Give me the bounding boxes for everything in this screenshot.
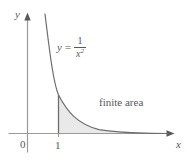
equation-denominator-exponent: 2 [81,47,85,55]
equation-lhs: y [57,42,62,53]
equation-fraction: 1 x2 [74,36,86,59]
graph-svg [0,0,189,163]
equation-denominator: x2 [74,48,86,59]
finite-area-annotation: finite area [99,97,143,108]
equation-relation: = [64,42,72,53]
y-axis-arrow-icon [24,13,30,21]
y-axis-label: y [15,9,20,20]
x-tick-label-1: 1 [55,140,61,151]
figure-canvas: y x 0 1 y = 1 x2 finite area [0,0,189,163]
origin-label: 0 [20,139,26,150]
x-axis-label: x [176,139,181,150]
equation-label: y = 1 x2 [57,36,86,59]
equation-numerator: 1 [76,36,85,47]
